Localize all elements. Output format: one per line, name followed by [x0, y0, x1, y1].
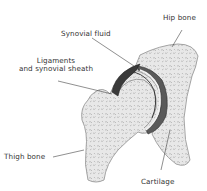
label-ligaments: Ligaments and synovial sheath: [10, 57, 102, 74]
leader-ligaments: [58, 81, 112, 94]
leader-thigh-bone: [53, 150, 84, 157]
label-hip-bone: Hip bone: [163, 14, 196, 22]
label-ligaments-line2: and synovial sheath: [10, 65, 102, 73]
label-cartilage: Cartilage: [141, 178, 174, 186]
label-synovial-fluid: Synovial fluid: [61, 30, 111, 38]
label-thigh-bone: Thigh bone: [4, 153, 45, 161]
